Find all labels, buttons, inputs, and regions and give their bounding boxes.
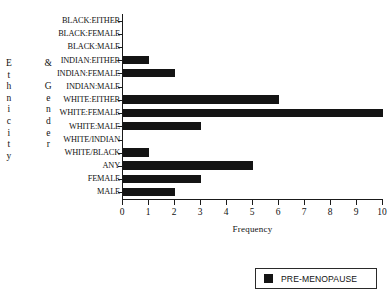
y-axis-title-char: h (7, 81, 12, 93)
value-axis-tick (304, 200, 305, 205)
y-axis-title-char: c (7, 116, 11, 128)
value-axis-tick (148, 200, 149, 205)
y-axis-title-char: n (7, 93, 12, 105)
value-axis-tick (382, 200, 383, 205)
x-axis-title: Frequency (122, 224, 383, 234)
legend-label-pre-menopause: PRE-MENOPAUSE (281, 274, 357, 284)
category-label: FEMALE (40, 172, 120, 185)
value-axis-tick (174, 200, 175, 205)
value-axis-tick-label: 3 (190, 207, 210, 217)
category-label: BLACK:MALE (40, 40, 120, 53)
value-axis-tick-label: 6 (268, 207, 288, 217)
category-label: WHITE/INDIAN (40, 133, 120, 146)
category-label: WHITE:MALE (40, 120, 120, 133)
value-axis-tick-label: 4 (216, 207, 236, 217)
value-axis-tick-label: 5 (242, 207, 262, 217)
value-axis-tick (122, 200, 123, 205)
bar (123, 175, 201, 184)
y-axis-title-column-ethnicity: Ethnicity (6, 58, 12, 162)
bar (123, 122, 201, 131)
value-axis-tick (226, 200, 227, 205)
category-axis-tick (118, 34, 123, 35)
value-axis-tick-label: 10 (372, 207, 392, 217)
category-label: INDIAN:FEMALE (40, 67, 120, 80)
category-label: WHITE:FEMALE (40, 106, 120, 119)
y-axis-title-char: i (8, 128, 11, 140)
value-axis-tick (330, 200, 331, 205)
category-label: BLACK:EITHER (40, 14, 120, 27)
bar (123, 109, 383, 118)
bar (123, 56, 149, 65)
bar (123, 148, 149, 157)
category-label: WHITE:EITHER (40, 93, 120, 106)
legend: PRE-MENOPAUSE (255, 268, 377, 289)
value-axis-tick-label: 1 (138, 207, 158, 217)
bar (123, 188, 175, 197)
y-axis-title-char: t (8, 70, 11, 82)
bar (123, 95, 279, 104)
bar (123, 69, 175, 78)
value-axis-tick-label: 2 (164, 207, 184, 217)
y-axis-title-char: i (8, 104, 11, 116)
y-axis-title-char: E (6, 58, 12, 70)
bar (123, 161, 253, 170)
value-axis-tick-label: 8 (320, 207, 340, 217)
category-label: INDIAN:MALE (40, 80, 120, 93)
value-axis-tick-label: 9 (346, 207, 366, 217)
category-label: INDIAN:EITHER (40, 54, 120, 67)
category-axis-line (122, 14, 123, 199)
y-axis-title-char: y (7, 151, 12, 163)
category-label: ANY (40, 159, 120, 172)
value-axis-tick-label: 7 (294, 207, 314, 217)
value-axis-tick (278, 200, 279, 205)
value-axis-tick-label: 0 (112, 207, 132, 217)
category-axis-tick (118, 87, 123, 88)
category-axis-tick (118, 21, 123, 22)
category-label: BLACK:FEMALE (40, 27, 120, 40)
plot-area: 012345678910 (122, 14, 382, 199)
value-axis-tick (252, 200, 253, 205)
y-axis-title-char: t (8, 139, 11, 151)
value-axis-tick (356, 200, 357, 205)
category-label: MALE (40, 185, 120, 198)
legend-swatch-pre-menopause (264, 274, 273, 283)
category-axis-labels: BLACK:EITHERBLACK:FEMALEBLACK:MALEINDIAN… (40, 14, 120, 199)
category-axis-tick (118, 47, 123, 48)
category-label: WHITE/BLACK (40, 146, 120, 159)
category-axis-tick (118, 140, 123, 141)
value-axis-tick (200, 200, 201, 205)
